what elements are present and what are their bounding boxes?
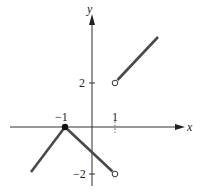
tick-label-y-neg2: −2 xyxy=(73,167,86,181)
x-axis-arrow-icon xyxy=(175,124,185,130)
segment-middle xyxy=(65,127,113,172)
tick-label-x-1: 1 xyxy=(112,110,118,124)
open-point-marker-lower xyxy=(112,171,118,177)
closed-point-marker xyxy=(62,124,68,130)
segment-left xyxy=(31,127,65,172)
tick-label-y-2: 2 xyxy=(79,76,85,90)
open-point-marker-upper xyxy=(112,80,118,86)
tick-label-x-neg1: −1 xyxy=(55,110,68,124)
y-axis-label: y xyxy=(86,2,93,16)
x-axis-label: x xyxy=(186,120,193,134)
function-graph: x y −1 1 2 −2 xyxy=(0,0,200,193)
segment-upper xyxy=(118,37,159,80)
